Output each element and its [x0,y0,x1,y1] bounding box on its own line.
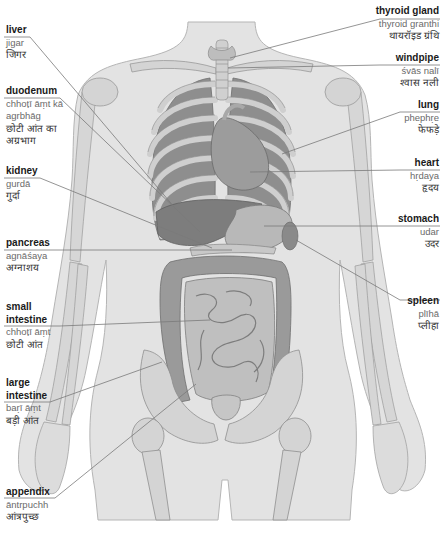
label-liver-hindi: जिगर [6,49,27,62]
label-thyroid-gland-hindi: थायरॉइड ग्रंथि [376,30,439,43]
label-heart-english: heart [410,157,439,170]
label-windpipe: windpipe śvās nalī श्वास नली [396,52,439,90]
label-small-intestine-english-2: intestine [6,314,50,327]
label-small-intestine-hindi: छोटी आंत [6,339,50,352]
label-spleen: spleen plīhā प्लीहा [407,295,439,333]
label-duodenum: duodenum chhoṭī āṃt kā agrbhāg छोटी आंत … [6,85,63,148]
label-windpipe-english: windpipe [396,52,439,65]
label-windpipe-translit: śvās nalī [396,65,439,78]
label-kidney-hindi: गुर्दा [6,190,38,203]
label-duodenum-translit-2: agrbhāg [6,110,63,123]
label-spleen-hindi: प्लीहा [407,320,439,333]
label-appendix-translit: āntrpuchh [6,499,50,512]
label-small-intestine: small intestine chhoṭī āṃt छोटी आंत [6,301,50,351]
label-stomach: stomach udar उदर [398,213,439,251]
label-heart: heart hṛdaya हृदय [410,157,439,195]
label-spleen-english: spleen [407,295,439,308]
label-stomach-english: stomach [398,213,439,226]
label-pancreas-english: pancreas [6,237,50,250]
label-thyroid-gland-english: thyroid gland [376,5,439,18]
label-thyroid-gland-translit: thyroid granthi [376,18,439,31]
label-thyroid-gland: thyroid gland thyroid granthi थायरॉइड ग्… [376,5,439,43]
label-lung-translit: phephṛe [404,112,439,125]
label-windpipe-hindi: श्वास नली [396,77,439,90]
label-liver-english: liver [6,24,27,37]
label-duodenum-hindi-2: अग्रभाग [6,135,63,148]
label-liver-translit: jigar [6,37,27,50]
label-large-intestine-english-2: intestine [6,390,47,403]
label-kidney-translit: gurdā [6,178,38,191]
windpipe [216,40,228,100]
small-intestine [184,278,274,402]
label-pancreas-hindi: अग्नाशय [6,262,50,275]
label-stomach-translit: udar [398,226,439,239]
label-pancreas: pancreas agnāśaya अग्नाशय [6,237,50,275]
anatomy-illustration [0,0,443,534]
label-large-intestine-translit: baṛī āṃt [6,402,47,415]
label-lung-english: lung [404,99,439,112]
label-appendix-hindi: आंत्रपुच्छ [6,511,50,524]
label-stomach-hindi: उदर [398,238,439,251]
label-small-intestine-english: small [6,301,50,314]
label-large-intestine-english: large [6,377,47,390]
label-appendix-english: appendix [6,486,50,499]
label-duodenum-english: duodenum [6,85,63,98]
label-heart-hindi: हृदय [410,182,439,195]
label-heart-translit: hṛdaya [410,170,439,183]
label-pancreas-translit: agnāśaya [6,250,50,263]
label-kidney: kidney gurdā गुर्दा [6,165,38,203]
label-lung-hindi: फेफड़े [404,124,439,137]
label-small-intestine-translit: chhoṭī āṃt [6,326,50,339]
label-liver: liver jigar जिगर [6,24,27,62]
label-duodenum-translit: chhoṭī āṃt kā [6,98,63,111]
label-kidney-english: kidney [6,165,38,178]
label-lung: lung phephṛe फेफड़े [404,99,439,137]
label-spleen-translit: plīhā [407,308,439,321]
label-large-intestine: large intestine baṛī āṃt बड़ी आंत [6,377,47,427]
label-duodenum-hindi: छोटी आंत का [6,123,63,136]
label-large-intestine-hindi: बड़ी आंत [6,415,47,428]
label-appendix: appendix āntrpuchh आंत्रपुच्छ [6,486,50,524]
